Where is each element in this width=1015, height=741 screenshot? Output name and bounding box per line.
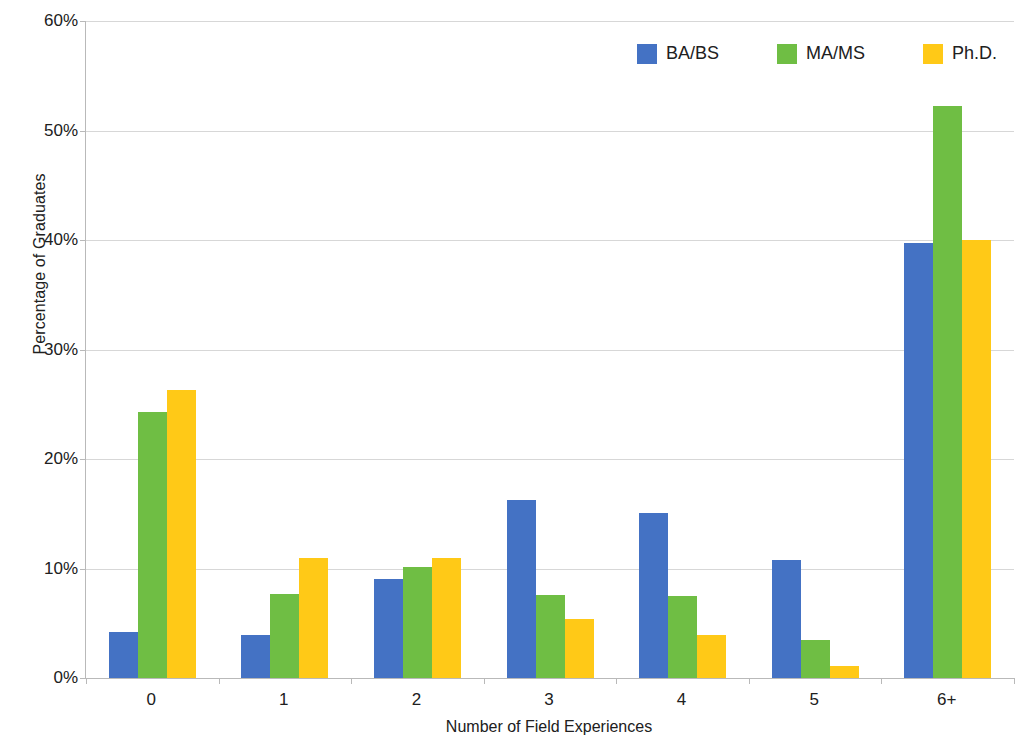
y-axis-tick-mark [80, 240, 86, 241]
bar [241, 635, 270, 678]
legend-swatch-icon [777, 44, 797, 64]
x-axis-tick-mark [881, 678, 882, 684]
bar-group [373, 21, 461, 678]
x-axis-title: Number of Field Experiences [85, 718, 1013, 736]
bar [962, 240, 991, 678]
bar [830, 666, 859, 678]
legend-item: MA/MS [777, 43, 865, 64]
y-axis-tick-label: 10% [26, 560, 78, 577]
x-axis-tick-mark [86, 678, 87, 684]
y-axis-tick-labels: 0%10%20%30%40%50%60% [26, 0, 78, 741]
bar-group [771, 21, 859, 678]
bar [639, 513, 668, 678]
bar [536, 595, 565, 678]
bar [933, 106, 962, 678]
bar-chart: Percentage of Graduates 0%10%20%30%40%50… [0, 0, 1015, 741]
bar [432, 558, 461, 678]
y-axis-tick-mark [80, 21, 86, 22]
y-axis-tick-mark [80, 569, 86, 570]
bar [270, 594, 299, 678]
y-axis-tick-label: 40% [26, 231, 78, 248]
bar [138, 412, 167, 678]
x-axis-tick-mark [484, 678, 485, 684]
bar-group [506, 21, 594, 678]
bar-group [639, 21, 727, 678]
y-axis-tick-mark [80, 350, 86, 351]
x-axis-tick-label: 5 [754, 690, 874, 710]
y-axis-tick-label: 50% [26, 122, 78, 139]
legend-swatch-icon [637, 44, 657, 64]
plot-area [85, 21, 1014, 679]
y-axis-tick-label: 30% [26, 341, 78, 358]
legend: BA/BSMA/MSPh.D. [637, 43, 997, 64]
bar [697, 635, 726, 678]
legend-label: BA/BS [666, 43, 719, 64]
y-axis-tick-label: 60% [26, 12, 78, 29]
legend-item: BA/BS [637, 43, 719, 64]
legend-label: Ph.D. [952, 43, 997, 64]
bar [507, 500, 536, 678]
bar [565, 619, 594, 678]
bar [772, 560, 801, 678]
y-axis-tick-label: 20% [26, 450, 78, 467]
bar-group [241, 21, 329, 678]
x-axis-tick-label: 4 [622, 690, 742, 710]
bar-group [108, 21, 196, 678]
bar [904, 243, 933, 678]
x-axis-tick-label: 0 [91, 690, 211, 710]
bar [801, 640, 830, 678]
bar [668, 596, 697, 678]
x-axis-tick-label: 6+ [887, 690, 1007, 710]
bar-group [904, 21, 992, 678]
y-axis-tick-mark [80, 459, 86, 460]
bar [299, 558, 328, 678]
bar [109, 632, 138, 678]
x-axis-tick-mark [219, 678, 220, 684]
x-axis-tick-label: 3 [489, 690, 609, 710]
x-axis-tick-mark [351, 678, 352, 684]
bar [403, 567, 432, 678]
bar [167, 390, 196, 678]
x-axis-tick-label: 1 [224, 690, 344, 710]
bar [374, 579, 403, 678]
legend-item: Ph.D. [923, 43, 997, 64]
y-axis-tick-mark [80, 131, 86, 132]
y-axis-tick-label: 0% [26, 669, 78, 686]
x-axis-tick-mark [749, 678, 750, 684]
x-axis-tick-mark [616, 678, 617, 684]
legend-label: MA/MS [806, 43, 865, 64]
legend-swatch-icon [923, 44, 943, 64]
x-axis-tick-label: 2 [356, 690, 476, 710]
